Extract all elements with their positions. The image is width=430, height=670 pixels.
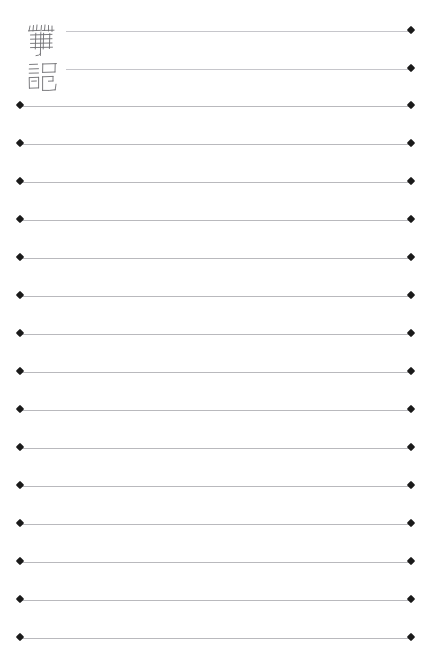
ruled-line-row <box>20 139 411 150</box>
ruled-line <box>20 410 411 411</box>
ruled-line-row <box>20 595 411 606</box>
ruled-line-row <box>20 329 411 340</box>
ruled-line <box>20 372 411 373</box>
line-endpoint-diamond-right <box>407 177 415 185</box>
ruled-line-row <box>20 101 411 112</box>
line-endpoint-diamond-left <box>16 481 24 489</box>
line-endpoint-diamond-right <box>407 405 415 413</box>
ruled-line-row <box>20 519 411 530</box>
line-endpoint-diamond-right <box>407 64 415 72</box>
ruled-line-row <box>20 405 411 416</box>
ruled-line <box>20 600 411 601</box>
line-endpoint-diamond-left <box>16 367 24 375</box>
ruled-line-row <box>20 291 411 302</box>
ruled-line <box>20 258 411 259</box>
line-endpoint-diamond-right <box>407 101 415 109</box>
ruled-line <box>20 144 411 145</box>
line-endpoint-diamond-left <box>16 329 24 337</box>
handwritten-title-strokes <box>23 20 63 100</box>
line-endpoint-diamond-right <box>407 633 415 641</box>
ruled-line <box>20 562 411 563</box>
ruled-line <box>20 334 411 335</box>
line-endpoint-diamond-left <box>16 253 24 261</box>
ruled-line <box>20 220 411 221</box>
line-endpoint-diamond-left <box>16 519 24 527</box>
line-endpoint-diamond-right <box>407 367 415 375</box>
ruled-line-row <box>66 64 411 75</box>
line-endpoint-diamond-left <box>16 405 24 413</box>
ruled-line <box>20 486 411 487</box>
line-endpoint-diamond-right <box>407 557 415 565</box>
ruled-line <box>20 182 411 183</box>
ruled-line <box>20 106 411 107</box>
ruled-line-row <box>20 253 411 264</box>
line-endpoint-diamond-right <box>407 26 415 34</box>
ruled-line-row <box>20 481 411 492</box>
ruled-line <box>20 524 411 525</box>
line-endpoint-diamond-left <box>16 177 24 185</box>
line-endpoint-diamond-right <box>407 595 415 603</box>
line-endpoint-diamond-right <box>407 481 415 489</box>
line-endpoint-diamond-right <box>407 291 415 299</box>
line-endpoint-diamond-right <box>407 139 415 147</box>
line-endpoint-diamond-left <box>16 215 24 223</box>
ruled-line-row <box>20 557 411 568</box>
ruled-line-row <box>66 26 411 37</box>
line-endpoint-diamond-right <box>407 443 415 451</box>
line-endpoint-diamond-left <box>16 557 24 565</box>
line-endpoint-diamond-right <box>407 519 415 527</box>
ruled-line-row <box>20 633 411 644</box>
ruled-line-row <box>20 177 411 188</box>
line-endpoint-diamond-right <box>407 253 415 261</box>
notebook-page: 筆記 <box>0 0 430 670</box>
line-endpoint-diamond-right <box>407 329 415 337</box>
line-endpoint-diamond-left <box>16 595 24 603</box>
line-endpoint-diamond-left <box>16 101 24 109</box>
line-endpoint-diamond-left <box>16 633 24 641</box>
ruled-line <box>66 31 411 32</box>
ruled-line <box>66 69 411 70</box>
line-endpoint-diamond-right <box>407 215 415 223</box>
ruled-line-row <box>20 443 411 454</box>
ruled-line <box>20 638 411 639</box>
ruled-line-row <box>20 215 411 226</box>
ruled-line <box>20 296 411 297</box>
line-endpoint-diamond-left <box>16 139 24 147</box>
line-endpoint-diamond-left <box>16 443 24 451</box>
handwritten-title-biji: 筆記 <box>23 20 63 100</box>
ruled-line-row <box>20 367 411 378</box>
ruled-line <box>20 448 411 449</box>
line-endpoint-diamond-left <box>16 291 24 299</box>
